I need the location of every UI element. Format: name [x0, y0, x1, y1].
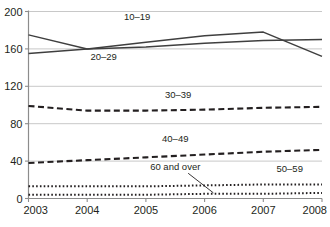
y-tick-label: 40: [10, 155, 22, 167]
series-label-10-19: 10–19: [124, 11, 150, 22]
chart-canvas: 04080120160200 200320042005200620072008 …: [0, 0, 330, 227]
annotation-leader: [188, 173, 213, 193]
y-axis: [25, 11, 29, 199]
series-line-10-19: [29, 32, 323, 56]
series-label-50-59: 50–59: [277, 163, 303, 174]
y-tick-label: 120: [4, 80, 22, 92]
annotation-leader-line: [188, 173, 213, 193]
x-tick-label: 2006: [192, 204, 216, 216]
y-tick-labels: 04080120160200: [4, 6, 22, 205]
y-tick-label: 80: [10, 118, 22, 130]
x-tick-label: 2005: [134, 204, 158, 216]
series-label-60-and-over: 60 and over: [150, 161, 200, 172]
series-label-40-49: 40–49: [162, 133, 188, 144]
x-tick-label: 2003: [24, 204, 48, 216]
x-tick-label: 2004: [75, 204, 99, 216]
x-tick-labels: 200320042005200620072008: [24, 204, 328, 216]
x-axis: [29, 199, 323, 203]
series-line-30-39: [29, 106, 323, 111]
series-line-50-59: [29, 184, 323, 186]
series-line-60-and-over: [29, 193, 323, 195]
series-line-20-29: [29, 40, 323, 54]
x-tick-label: 2007: [251, 204, 275, 216]
x-tick-label: 2008: [303, 204, 327, 216]
line-chart: 04080120160200 200320042005200620072008 …: [0, 0, 330, 227]
y-tick-label: 0: [16, 193, 22, 205]
y-tick-label: 200: [4, 6, 22, 18]
series-label-30-39: 30–39: [165, 89, 191, 100]
series-label-20-29: 20–29: [90, 51, 116, 62]
y-tick-label: 160: [4, 43, 22, 55]
